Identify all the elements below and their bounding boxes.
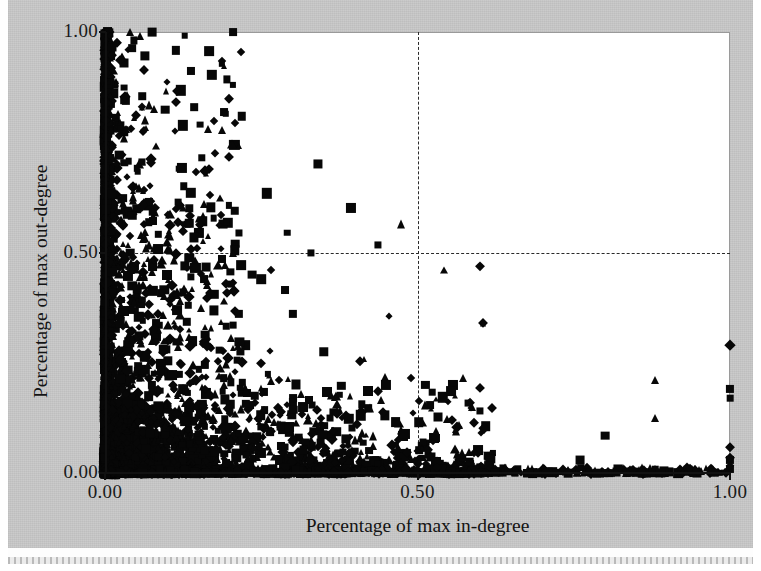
figure-root: 0.00 0.50 1.00 0.00 0.50 1.00 Percentage…	[0, 0, 761, 571]
data-point-square	[172, 339, 179, 346]
data-point-square	[229, 28, 237, 36]
data-point-square	[337, 391, 343, 397]
data-point-triangle	[156, 327, 162, 334]
data-point-triangle	[203, 433, 209, 439]
data-point-square	[172, 46, 180, 54]
data-point-square	[576, 455, 585, 464]
data-point-square	[727, 395, 734, 402]
data-point-triangle	[218, 126, 226, 134]
data-point-triangle	[358, 449, 364, 455]
data-point-square	[337, 381, 345, 389]
data-point-square	[209, 306, 218, 315]
data-point-triangle	[320, 421, 326, 428]
data-point-square	[181, 33, 188, 40]
data-point-square	[400, 429, 410, 439]
data-point-square	[157, 387, 164, 394]
data-point-triangle	[163, 402, 169, 409]
data-point-triangle	[127, 416, 133, 423]
data-point-triangle	[138, 280, 148, 289]
data-point-square	[223, 323, 230, 330]
data-point-triangle	[221, 63, 227, 69]
y-axis-title: Percentage of max out-degree	[30, 164, 52, 397]
data-point-diamond	[275, 376, 283, 384]
data-point-square	[140, 51, 149, 60]
data-point-square	[239, 379, 245, 385]
data-point-diamond	[475, 383, 485, 393]
data-point-square	[230, 322, 237, 329]
page-bottom-margin	[8, 548, 753, 557]
data-point-square	[125, 158, 132, 165]
data-point-square	[220, 395, 229, 404]
data-point-diamond	[171, 98, 181, 108]
data-point-triangle	[327, 391, 335, 400]
data-point-square	[236, 260, 246, 270]
data-point-triangle	[175, 310, 185, 319]
data-point-square	[121, 252, 128, 259]
data-point-square	[477, 408, 484, 415]
data-point-square	[421, 381, 429, 389]
data-point-square	[289, 406, 298, 415]
data-point-square	[429, 389, 436, 396]
x-axis-tick	[417, 473, 419, 480]
data-point-square	[281, 286, 289, 294]
data-point-diamond	[178, 226, 188, 236]
data-point-triangle	[145, 100, 153, 109]
data-point-triangle	[152, 142, 160, 149]
data-point-square	[196, 410, 202, 416]
data-point-triangle	[144, 361, 152, 369]
data-point-triangle	[397, 220, 405, 229]
data-point-square	[128, 211, 136, 219]
data-point-square	[154, 401, 163, 410]
data-point-square	[197, 121, 204, 128]
data-point-square	[262, 188, 272, 198]
data-point-triangle	[205, 233, 211, 239]
data-point-square	[341, 434, 350, 443]
data-point-triangle	[133, 365, 139, 372]
data-point-triangle	[118, 443, 124, 448]
data-point-square	[167, 370, 177, 380]
data-point-triangle	[266, 449, 274, 456]
data-point-triangle	[108, 36, 114, 43]
data-point-diamond	[123, 174, 130, 181]
data-point-triangle	[433, 427, 439, 433]
data-point-square	[327, 414, 334, 421]
data-point-square	[142, 445, 151, 454]
data-point-triangle	[202, 362, 208, 369]
data-point-triangle	[121, 404, 127, 410]
data-point-square	[187, 67, 195, 75]
data-point-square	[446, 386, 456, 396]
data-point-square	[145, 428, 154, 437]
data-point-triangle	[267, 377, 275, 385]
data-point-square	[242, 451, 249, 458]
data-point-triangle	[117, 118, 123, 125]
data-point-triangle	[455, 421, 463, 429]
data-point-triangle	[141, 116, 149, 125]
data-point-square	[180, 417, 190, 427]
data-point-square	[316, 439, 325, 448]
data-point-triangle	[428, 407, 434, 412]
data-point-triangle	[163, 87, 169, 94]
data-point-triangle	[127, 266, 135, 274]
data-point-triangle	[140, 198, 148, 206]
data-point-square	[206, 203, 215, 212]
data-point-square	[108, 268, 117, 277]
data-point-triangle	[135, 183, 143, 192]
data-point-triangle	[189, 286, 195, 292]
data-point-triangle	[193, 443, 199, 448]
data-point-diamond	[409, 410, 416, 417]
data-point-square	[235, 309, 243, 317]
data-point-triangle	[381, 373, 389, 381]
data-point-triangle	[393, 443, 403, 452]
data-point-square	[288, 310, 296, 318]
data-point-square	[134, 165, 140, 171]
data-point-triangle	[121, 218, 127, 225]
data-point-square	[434, 412, 443, 421]
data-point-triangle	[257, 412, 265, 419]
data-point-diamond	[176, 359, 186, 369]
data-point-square	[149, 209, 156, 216]
data-point-square	[381, 380, 391, 390]
data-point-triangle	[331, 449, 339, 456]
x-axis-tick	[104, 473, 106, 480]
data-point-diamond	[224, 94, 234, 104]
data-point-diamond	[139, 65, 149, 75]
